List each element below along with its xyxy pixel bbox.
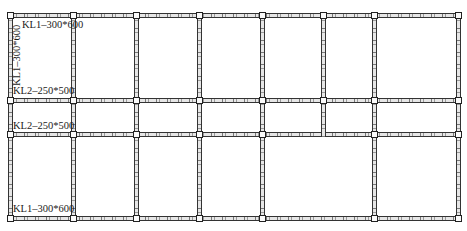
column-node: [259, 97, 266, 104]
column-node: [455, 12, 462, 19]
column-node: [455, 215, 462, 222]
column-node: [7, 215, 14, 222]
column-node: [196, 131, 203, 138]
beam-lower-middle-kl2: [10, 132, 462, 137]
beam-vertical-2: [71, 13, 76, 221]
beam-top-kl1: [10, 13, 462, 18]
label-bottom-beam: KL1–300*600: [13, 204, 74, 215]
column-node: [70, 215, 77, 222]
label-lower-middle-beam: KL2–250*500: [13, 121, 74, 132]
column-node: [7, 12, 14, 19]
column-node: [320, 12, 327, 19]
column-node: [7, 97, 14, 104]
beam-bottom-kl1: [10, 216, 462, 221]
label-left-beam-vertical: KL1–300*600: [12, 25, 23, 86]
column-node: [371, 131, 378, 138]
beam-vertical-7: [372, 13, 377, 221]
label-top-beam: KL1–300*600: [22, 20, 83, 31]
column-node: [259, 12, 266, 19]
beam-upper-middle-kl2: [10, 98, 462, 103]
column-node: [320, 97, 327, 104]
column-node: [196, 215, 203, 222]
column-node: [455, 131, 462, 138]
column-node: [371, 97, 378, 104]
label-upper-middle-beam: KL2–250*500: [13, 86, 74, 97]
column-node: [133, 215, 140, 222]
column-node: [259, 131, 266, 138]
column-node: [196, 97, 203, 104]
column-node: [7, 131, 14, 138]
beam-vertical-6-partial: [321, 13, 326, 137]
beam-vertical-4: [197, 13, 202, 221]
column-node: [455, 97, 462, 104]
column-node: [371, 215, 378, 222]
column-node: [133, 97, 140, 104]
column-node: [133, 131, 140, 138]
beam-vertical-3: [134, 13, 139, 221]
column-node: [70, 97, 77, 104]
column-node: [133, 12, 140, 19]
beam-vertical-5: [260, 13, 265, 221]
column-node: [196, 12, 203, 19]
beam-layout-drawing: KL1–300*600 KL1–300*600 KL2–250*500 KL2–…: [0, 0, 467, 231]
column-node: [371, 12, 378, 19]
column-node: [70, 131, 77, 138]
column-node: [70, 12, 77, 19]
column-node: [259, 215, 266, 222]
beam-vertical-8: [456, 13, 461, 221]
